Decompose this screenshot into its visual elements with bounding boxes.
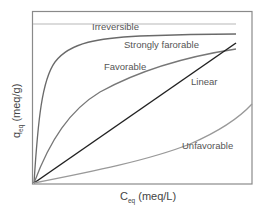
- label-linear: Linear: [191, 76, 217, 87]
- y-axis-label: qeq (meq/g): [10, 84, 25, 138]
- label-strongly-favorable: Strongly farorable: [124, 39, 199, 50]
- label-favorable: Favorable: [104, 61, 146, 72]
- plot-frame: [33, 12, 253, 185]
- isotherm-chart: Irreversible Strongly farorable Favorabl…: [0, 0, 265, 211]
- label-irreversible: Irreversible: [92, 21, 139, 32]
- label-unfavorable: Unfavorable: [182, 140, 233, 151]
- x-axis-label: Ceq (meq/L): [120, 190, 176, 205]
